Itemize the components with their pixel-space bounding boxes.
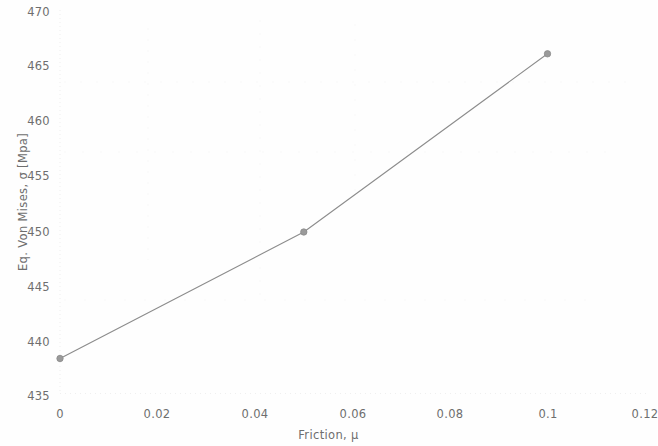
y-tick-label: 465 <box>6 61 50 73</box>
x-tick-label: 0.12 <box>632 409 658 421</box>
data-line-series-1 <box>60 54 548 359</box>
y-tick-label: 440 <box>6 337 50 349</box>
data-point-0 <box>57 355 63 361</box>
x-tick-label: 0.04 <box>242 409 269 421</box>
y-tick-label: 435 <box>6 391 50 403</box>
x-tick-label: 0.06 <box>340 409 367 421</box>
x-tick-label: 0.1 <box>538 409 557 421</box>
x-axis-title: Friction, μ <box>0 428 657 442</box>
y-tick-label: 470 <box>6 7 50 19</box>
x-tick-label: 0.02 <box>144 409 171 421</box>
x-axis-tick-labels: 0 0.02 0.04 0.06 0.08 0.1 0.12 <box>0 409 657 427</box>
x-tick-label: 0 <box>56 409 64 421</box>
data-point-markers <box>57 51 551 362</box>
data-point-2 <box>544 51 550 57</box>
y-axis-title: Eq. Von Mises, σ [Mpa] <box>16 117 30 287</box>
axis-lines <box>60 10 650 394</box>
x-tick-label: 0.08 <box>437 409 464 421</box>
data-point-1 <box>301 229 307 235</box>
scan-artifacts <box>64 20 640 300</box>
